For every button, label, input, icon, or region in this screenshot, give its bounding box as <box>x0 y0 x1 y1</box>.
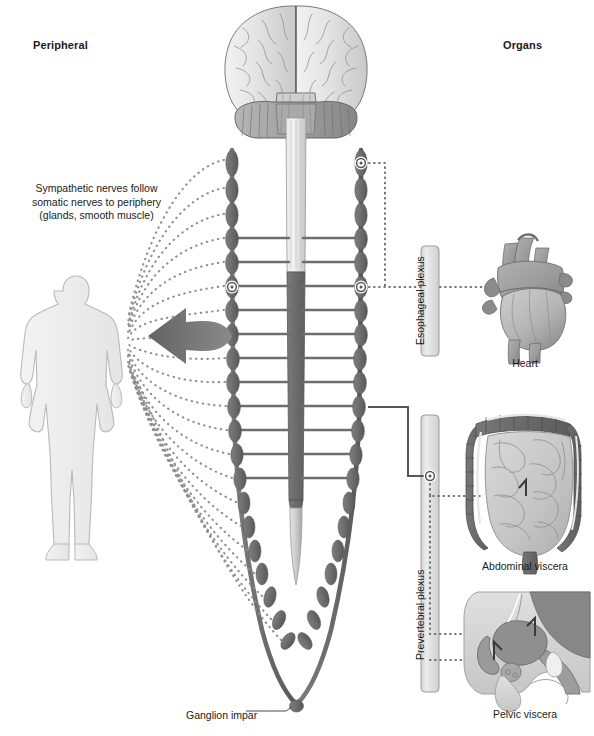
caption-sympathetic-nerves: Sympathetic nerves follow somatic nerves… <box>9 182 184 223</box>
sympathetic-trunk-right <box>295 150 368 704</box>
synapse-marker-right-upper <box>355 157 366 168</box>
label-heart: Heart <box>470 357 580 369</box>
peripheral-distribution-arrow <box>148 308 232 364</box>
caption-line-1: Sympathetic nerves follow <box>9 182 184 196</box>
synapse-marker-left <box>226 281 237 292</box>
caption-line-2: somatic nerves to periphery <box>9 196 184 210</box>
label-esophageal-plexus: Esophageal plexus <box>414 256 426 345</box>
label-ganglion-impar: Ganglion impar <box>186 709 257 721</box>
preganglionic-route-prevertebral <box>368 407 424 476</box>
human-body-silhouette <box>21 276 123 560</box>
label-prevertebral-plexus: Prevertebral plexus <box>414 570 426 660</box>
label-abdominal-viscera: Abdominal viscera <box>455 560 594 572</box>
heart-illustration <box>482 234 572 364</box>
header-organs: Organs <box>503 39 542 51</box>
caption-line-3: (glands, smooth muscle) <box>9 209 184 223</box>
synapse-marker-prevertebral <box>424 470 435 481</box>
header-peripheral: Peripheral <box>33 39 88 51</box>
pelvic-viscera-illustration <box>464 592 590 712</box>
synapse-marker-right-lower <box>355 281 366 292</box>
spinal-cord <box>286 118 306 585</box>
path-to-esophageal-upper <box>369 163 385 287</box>
label-pelvic-viscera: Pelvic viscera <box>460 708 590 720</box>
diagram-canvas: Peripheral Organs Sympathetic nerves fol… <box>0 0 594 736</box>
abdominal-viscera-illustration <box>466 414 582 574</box>
